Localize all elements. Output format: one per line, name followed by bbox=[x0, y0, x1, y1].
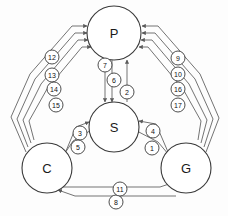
edge-label-15: 15 bbox=[52, 102, 60, 109]
edge-label-13: 13 bbox=[48, 72, 56, 79]
edge-label-3: 3 bbox=[78, 130, 82, 137]
edge-label-17: 17 bbox=[174, 102, 182, 109]
edge-label-1: 1 bbox=[150, 145, 154, 152]
graph-svg: PSCG 1234567891011121314151617 bbox=[0, 0, 228, 216]
edge-label-6: 6 bbox=[112, 77, 116, 84]
node-label-S: S bbox=[110, 120, 119, 135]
diagram-canvas: PSCG 1234567891011121314151617 bbox=[0, 0, 228, 216]
edge-label-14: 14 bbox=[50, 86, 58, 93]
edge-label-7: 7 bbox=[103, 62, 107, 69]
edge-label-16: 16 bbox=[174, 86, 182, 93]
edge-label-2: 2 bbox=[125, 89, 129, 96]
edge-label-12: 12 bbox=[48, 54, 56, 61]
edge-label-10: 10 bbox=[174, 71, 182, 78]
node-label-G: G bbox=[181, 161, 191, 176]
edge-label-4: 4 bbox=[151, 128, 155, 135]
node-label-C: C bbox=[42, 161, 51, 176]
node-label-P: P bbox=[110, 26, 119, 41]
edge-label-8: 8 bbox=[114, 199, 118, 206]
edge-label-9: 9 bbox=[176, 55, 180, 62]
edge-label-5: 5 bbox=[76, 144, 80, 151]
edge-label-11: 11 bbox=[116, 186, 123, 193]
